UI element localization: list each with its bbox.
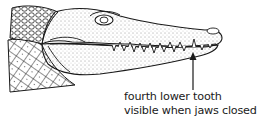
annotation-line-1: fourth lower tooth: [124, 90, 257, 104]
annotation-label: fourth lower tooth visible when jaws clo…: [124, 90, 257, 118]
crocodile-illustration: fourth lower tooth visible when jaws clo…: [0, 0, 262, 132]
annotation-line-2: visible when jaws closed: [124, 104, 257, 118]
